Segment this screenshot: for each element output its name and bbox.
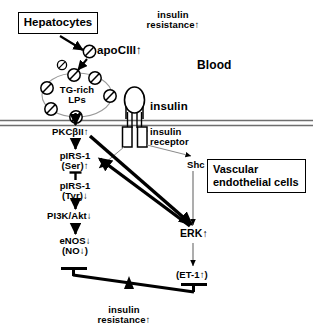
apociii-particle <box>104 90 116 102</box>
insulin-ligand <box>125 87 145 113</box>
erk-to-pirs-ser-bold-arrow <box>100 159 190 226</box>
blood-compartment-label: Blood <box>197 59 232 72</box>
hepatocytes-box: Hepatocytes <box>18 12 98 34</box>
apociii-particle <box>68 69 80 81</box>
apociii-particle-free <box>83 45 95 57</box>
shc-node-label: Shc <box>187 160 205 170</box>
apociii-particle <box>89 72 101 84</box>
balance-fulcrum-label: insulin resistance↑ <box>82 305 166 326</box>
enos-no-node-label: eNOS↓ (NO↓) <box>51 236 99 257</box>
receptor-to-pirs-line <box>99 147 124 168</box>
erk-node-label: ERK↑ <box>180 228 208 239</box>
insulin-resistance-top-label: insulin resistance↑ <box>131 10 215 31</box>
tg-rich-lps-label: TG-rich LPs <box>52 85 102 106</box>
pkc-beta-ii-node-label: PKCβII↑ <box>52 127 89 137</box>
apociii-label: apoCIII↑ <box>97 44 142 56</box>
insulin-receptor-label: insulin receptor <box>150 127 210 148</box>
pirs1-tyr-node-label: pIRS-1 (Tyr)↓ <box>53 181 97 202</box>
et1-node-label: (ET-1↑) <box>176 270 208 280</box>
apociii-particle <box>57 60 66 69</box>
hepatocytes-to-apociii-arrow <box>60 36 83 50</box>
insulin-label: insulin <box>150 100 188 112</box>
apociii-to-lipoprotein-arrow <box>78 59 87 70</box>
vascular-endothelial-cells-box: Vascular endothelial cells <box>207 159 306 193</box>
signaling-pathway-figure: Hepatocytes insulin resistance↑ apoCIII↑… <box>0 0 313 335</box>
plasma-membrane <box>0 121 313 126</box>
pirs1-ser-node-label: pIRS-1 (Ser)↑ <box>53 151 97 172</box>
pi3k-akt-node-label: PI3K/Akt↓ <box>47 211 92 221</box>
pkc-to-erk-bold-arrow <box>90 136 191 224</box>
